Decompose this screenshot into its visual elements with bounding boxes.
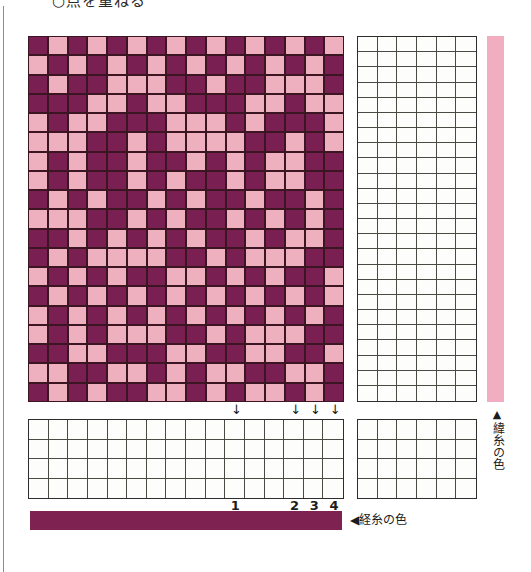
grid-cell[interactable] <box>417 98 437 113</box>
grid-cell[interactable] <box>437 371 457 386</box>
grid-cell[interactable] <box>456 113 476 128</box>
grid-cell[interactable] <box>265 440 285 460</box>
grid-cell[interactable] <box>417 234 437 249</box>
grid-cell[interactable] <box>456 158 476 173</box>
grid-cell[interactable] <box>437 356 457 371</box>
grid-cell[interactable] <box>397 310 417 325</box>
grid-cell[interactable] <box>225 420 245 440</box>
grid-cell[interactable] <box>397 280 417 295</box>
grid-cell[interactable] <box>358 52 378 67</box>
grid-cell[interactable] <box>397 189 417 204</box>
grid-cell[interactable] <box>186 420 206 440</box>
grid-cell[interactable] <box>417 128 437 143</box>
grid-cell[interactable] <box>225 459 245 479</box>
grid-cell[interactable] <box>417 310 437 325</box>
grid-cell[interactable] <box>378 37 398 52</box>
grid-cell[interactable] <box>284 440 304 460</box>
grid-cell[interactable] <box>49 479 69 499</box>
grid-cell[interactable] <box>304 440 324 460</box>
grid-cell[interactable] <box>323 459 343 479</box>
grid-cell[interactable] <box>265 420 285 440</box>
grid-cell[interactable] <box>417 440 437 460</box>
grid-cell[interactable] <box>397 67 417 82</box>
grid-cell[interactable] <box>417 356 437 371</box>
grid-cell[interactable] <box>378 440 398 460</box>
grid-cell[interactable] <box>437 249 457 264</box>
grid-cell[interactable] <box>456 98 476 113</box>
grid-cell[interactable] <box>397 265 417 280</box>
grid-cell[interactable] <box>456 219 476 234</box>
grid-cell[interactable] <box>127 420 147 440</box>
grid-cell[interactable] <box>358 98 378 113</box>
grid-cell[interactable] <box>29 459 49 479</box>
grid-cell[interactable] <box>284 459 304 479</box>
grid-cell[interactable] <box>397 420 417 440</box>
grid-cell[interactable] <box>108 440 128 460</box>
grid-cell[interactable] <box>397 83 417 98</box>
grid-cell[interactable] <box>147 459 167 479</box>
grid-cell[interactable] <box>378 143 398 158</box>
grid-cell[interactable] <box>108 459 128 479</box>
grid-cell[interactable] <box>437 440 457 460</box>
grid-cell[interactable] <box>68 459 88 479</box>
grid-cell[interactable] <box>304 459 324 479</box>
grid-cell[interactable] <box>358 356 378 371</box>
grid-cell[interactable] <box>304 479 324 499</box>
treadling-grid[interactable] <box>28 419 344 499</box>
grid-cell[interactable] <box>358 310 378 325</box>
grid-cell[interactable] <box>397 158 417 173</box>
grid-cell[interactable] <box>186 459 206 479</box>
grid-cell[interactable] <box>397 371 417 386</box>
grid-cell[interactable] <box>417 386 437 401</box>
grid-cell[interactable] <box>397 386 417 401</box>
grid-cell[interactable] <box>186 479 206 499</box>
grid-cell[interactable] <box>397 295 417 310</box>
grid-cell[interactable] <box>437 52 457 67</box>
grid-cell[interactable] <box>417 52 437 67</box>
grid-cell[interactable] <box>437 310 457 325</box>
grid-cell[interactable] <box>437 219 457 234</box>
grid-cell[interactable] <box>437 280 457 295</box>
grid-cell[interactable] <box>127 459 147 479</box>
grid-cell[interactable] <box>378 479 398 499</box>
grid-cell[interactable] <box>166 459 186 479</box>
grid-cell[interactable] <box>323 420 343 440</box>
grid-cell[interactable] <box>456 340 476 355</box>
grid-cell[interactable] <box>417 67 437 82</box>
grid-cell[interactable] <box>437 67 457 82</box>
grid-cell[interactable] <box>397 249 417 264</box>
grid-cell[interactable] <box>378 459 398 479</box>
grid-cell[interactable] <box>29 479 49 499</box>
grid-cell[interactable] <box>378 310 398 325</box>
grid-cell[interactable] <box>456 420 476 440</box>
grid-cell[interactable] <box>284 420 304 440</box>
grid-cell[interactable] <box>397 234 417 249</box>
grid-cell[interactable] <box>378 280 398 295</box>
grid-cell[interactable] <box>378 189 398 204</box>
grid-cell[interactable] <box>378 340 398 355</box>
grid-cell[interactable] <box>245 420 265 440</box>
grid-cell[interactable] <box>437 234 457 249</box>
grid-cell[interactable] <box>245 459 265 479</box>
grid-cell[interactable] <box>68 420 88 440</box>
grid-cell[interactable] <box>397 143 417 158</box>
grid-cell[interactable] <box>437 37 457 52</box>
grid-cell[interactable] <box>265 479 285 499</box>
grid-cell[interactable] <box>29 440 49 460</box>
grid-cell[interactable] <box>437 386 457 401</box>
grid-cell[interactable] <box>456 83 476 98</box>
grid-cell[interactable] <box>358 249 378 264</box>
grid-cell[interactable] <box>417 37 437 52</box>
grid-cell[interactable] <box>166 420 186 440</box>
grid-cell[interactable] <box>88 440 108 460</box>
grid-cell[interactable] <box>397 356 417 371</box>
grid-cell[interactable] <box>358 386 378 401</box>
grid-cell[interactable] <box>456 280 476 295</box>
grid-cell[interactable] <box>456 37 476 52</box>
grid-cell[interactable] <box>456 459 476 479</box>
grid-cell[interactable] <box>456 440 476 460</box>
grid-cell[interactable] <box>397 128 417 143</box>
grid-cell[interactable] <box>456 479 476 499</box>
grid-cell[interactable] <box>378 204 398 219</box>
grid-cell[interactable] <box>397 440 417 460</box>
